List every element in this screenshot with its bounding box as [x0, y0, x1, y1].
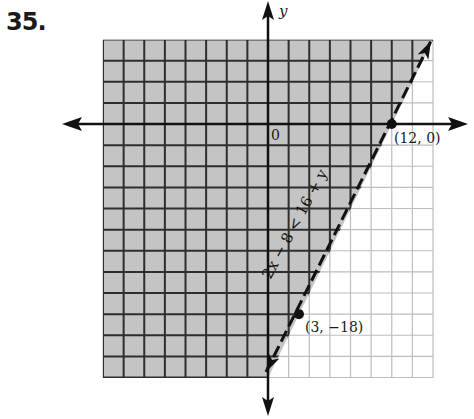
point-label-x-intercept: (12, 0) — [394, 130, 441, 146]
graph — [0, 0, 474, 419]
y-axis-label: y — [279, 2, 287, 20]
point-label-second: (3, −18) — [305, 319, 363, 335]
origin-label: 0 — [271, 127, 280, 143]
